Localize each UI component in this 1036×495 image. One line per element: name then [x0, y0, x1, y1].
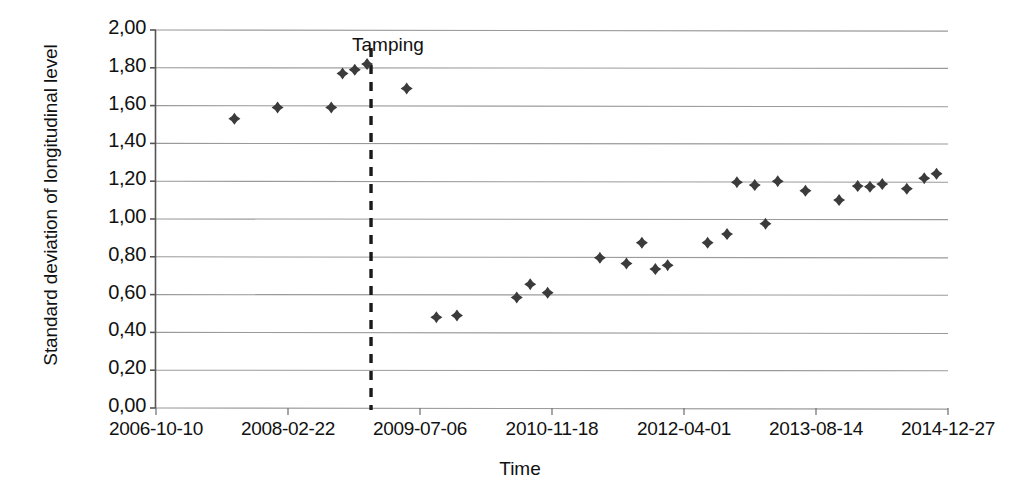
y-tick-label: 1,00	[68, 205, 146, 228]
data-point-marker	[931, 168, 943, 180]
data-point-marker	[430, 311, 442, 323]
data-point-marker	[325, 101, 337, 113]
x-axis-title: Time	[430, 458, 610, 480]
data-point-marker	[636, 237, 648, 249]
y-tick-label: 0,40	[68, 318, 146, 341]
gridline	[156, 143, 948, 144]
y-tick-label: 0,80	[68, 243, 146, 266]
x-tick-label: 2009-07-06	[345, 418, 495, 440]
gridline	[156, 257, 948, 258]
y-tick-label: 0,60	[68, 281, 146, 304]
gridline	[156, 219, 948, 220]
gridline	[156, 295, 948, 296]
x-tick-label: 2012-04-01	[609, 418, 759, 440]
gridline	[156, 181, 948, 182]
data-point-marker	[876, 178, 888, 190]
data-point-marker	[451, 309, 463, 321]
data-point-marker	[542, 287, 554, 299]
data-point-marker	[524, 278, 536, 290]
data-point-marker	[649, 263, 661, 275]
data-point-marker	[799, 185, 811, 197]
gridline	[156, 370, 948, 371]
gridline	[156, 68, 948, 69]
x-tick-label: 2014-12-27	[873, 418, 1023, 440]
data-point-marker	[662, 259, 674, 271]
y-tick-label: 1,20	[68, 167, 146, 190]
data-point-marker	[702, 237, 714, 249]
data-point-marker	[731, 176, 743, 188]
x-tick-label: 2006-10-10	[81, 418, 231, 440]
y-tick-label: 2,00	[68, 16, 146, 39]
data-point-marker	[511, 291, 523, 303]
gridline	[156, 30, 948, 31]
data-point-marker	[749, 179, 761, 191]
y-tick-label: 1,60	[68, 92, 146, 115]
data-point-marker	[594, 252, 606, 264]
data-point-group	[228, 58, 942, 323]
data-point-marker	[901, 183, 913, 195]
y-tick-label: 0,20	[68, 356, 146, 379]
y-tick-label: 1,80	[68, 54, 146, 77]
gridline-group	[156, 30, 948, 409]
data-point-marker	[228, 113, 240, 125]
y-tick-label: 1,40	[68, 129, 146, 152]
data-point-marker	[337, 67, 349, 79]
tamping-annotation-label: Tamping	[352, 34, 424, 56]
x-tick-label: 2013-08-14	[741, 418, 891, 440]
data-point-marker	[721, 228, 733, 240]
gridline	[156, 332, 948, 333]
data-point-marker	[833, 194, 845, 206]
data-point-marker	[349, 64, 361, 76]
x-tick-label: 2008-02-22	[213, 418, 363, 440]
y-axis-title: Standard deviation of longitudinal level	[34, 0, 68, 415]
data-point-marker	[272, 101, 284, 113]
data-point-marker	[401, 83, 413, 95]
y-tick-label: 0,00	[68, 394, 146, 417]
x-tick-label: 2010-11-18	[477, 418, 627, 440]
data-point-marker	[772, 175, 784, 187]
data-point-marker	[620, 257, 632, 269]
chart-figure: Standard deviation of longitudinal level…	[0, 0, 1036, 495]
